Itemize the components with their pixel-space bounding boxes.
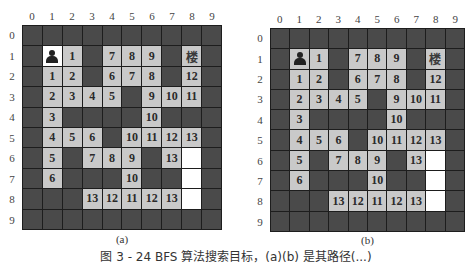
wall-cell: [271, 90, 289, 109]
row-label: 1: [6, 46, 18, 67]
wall-cell: [202, 128, 221, 147]
empty-cell: [426, 171, 444, 190]
step-cell: 8: [368, 49, 386, 68]
step-value: 8: [129, 49, 135, 64]
step-cell: 12: [426, 70, 444, 89]
step-cell: 10: [122, 169, 141, 188]
step-cell: 12: [387, 191, 405, 210]
wall-cell: [426, 212, 444, 231]
step-value: 9: [374, 153, 380, 168]
step-cell: 13: [162, 148, 181, 167]
step-value: 6: [297, 173, 303, 188]
empty-cell: [182, 148, 201, 167]
step-value: 11: [126, 191, 137, 206]
wall-cell: [23, 46, 42, 65]
column-labels: 0123456789: [22, 10, 222, 22]
step-cell: 7: [83, 148, 102, 167]
wall-cell: [271, 49, 289, 68]
step-cell: 9: [387, 90, 405, 109]
wall-cell: [349, 130, 367, 149]
step-cell: 2: [63, 67, 82, 86]
step-cell: 9: [142, 46, 161, 65]
wall-cell: [310, 171, 328, 190]
wall-cell: [43, 189, 62, 208]
wall-cell: [142, 26, 161, 45]
step-value: 11: [391, 133, 402, 148]
step-value: 2: [49, 89, 55, 104]
wall-cell: [387, 171, 405, 190]
step-value: 12: [429, 72, 441, 87]
step-value: 5: [69, 130, 75, 145]
wall-cell: [202, 67, 221, 86]
wall-cell: [202, 46, 221, 65]
column-label: 4: [348, 13, 368, 25]
wall-cell: [103, 108, 122, 127]
step-value: 6: [335, 133, 341, 148]
step-cell: 5: [290, 151, 308, 170]
wall-cell: [103, 210, 122, 229]
column-label: 7: [407, 13, 427, 25]
step-value: 8: [394, 72, 400, 87]
wall-cell: [122, 210, 141, 229]
step-value: 12: [410, 133, 422, 148]
wall-cell: [407, 70, 425, 89]
wall-cell: [182, 108, 201, 127]
step-value: 6: [109, 69, 115, 84]
step-cell: 10: [368, 130, 386, 149]
wall-cell: [23, 148, 42, 167]
goal-icon: 楼: [186, 48, 198, 65]
step-value: 3: [316, 92, 322, 107]
step-cell: 7: [122, 67, 141, 86]
step-cell: 12: [349, 191, 367, 210]
wall-cell: [271, 212, 289, 231]
step-value: 13: [429, 133, 441, 148]
wall-cell: [271, 171, 289, 190]
step-cell: 13: [162, 189, 181, 208]
row-label: 2: [6, 66, 18, 87]
step-cell: 6: [83, 128, 102, 147]
wall-cell: [103, 169, 122, 188]
step-value: 10: [410, 92, 422, 107]
step-value: 2: [316, 72, 322, 87]
column-label: 2: [309, 13, 329, 25]
wall-cell: [310, 212, 328, 231]
panel-label: (b): [270, 234, 465, 246]
step-value: 12: [146, 191, 158, 206]
wall-cell: [63, 169, 82, 188]
column-label: 7: [162, 10, 182, 22]
goal-cell: 楼: [182, 46, 201, 65]
row-labels: 0123456789: [254, 28, 266, 232]
wall-cell: [349, 110, 367, 129]
wall-cell: [446, 151, 464, 170]
wall-cell: [349, 29, 367, 48]
row-label: 5: [6, 128, 18, 149]
step-cell: 8: [122, 46, 141, 65]
step-value: 10: [371, 173, 383, 188]
wall-cell: [122, 26, 141, 45]
wall-cell: [329, 110, 347, 129]
wall-cell: [162, 108, 181, 127]
step-cell: 9: [387, 49, 405, 68]
step-value: 10: [126, 130, 138, 145]
step-cell: 9: [142, 87, 161, 106]
row-labels: 0123456789: [6, 25, 18, 230]
step-cell: 13: [407, 151, 425, 170]
wall-cell: [63, 26, 82, 45]
step-cell: 11: [426, 90, 444, 109]
step-cell: 4: [83, 87, 102, 106]
step-value: 9: [149, 89, 155, 104]
column-label: 5: [122, 10, 142, 22]
column-label: 1: [290, 13, 310, 25]
column-label: 3: [82, 10, 102, 22]
wall-cell: [446, 130, 464, 149]
step-value: 10: [166, 89, 178, 104]
step-cell: 11: [142, 128, 161, 147]
wall-cell: [446, 212, 464, 231]
wall-cell: [202, 210, 221, 229]
step-cell: 3: [63, 87, 82, 106]
wall-cell: [23, 128, 42, 147]
wall-cell: [446, 171, 464, 190]
wall-cell: [446, 110, 464, 129]
step-cell: 6: [290, 171, 308, 190]
step-value: 1: [316, 51, 322, 66]
